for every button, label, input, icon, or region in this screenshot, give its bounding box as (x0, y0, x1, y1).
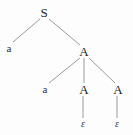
tree-edge (89, 58, 115, 83)
tree-node-n4: A (79, 83, 88, 96)
tree-node-n3: a (43, 84, 48, 95)
tree-node-n6: ε (81, 119, 85, 129)
tree-edge (49, 19, 80, 45)
tree-edge (49, 58, 80, 83)
tree-node-n2: A (79, 45, 88, 58)
tree-edge (13, 19, 40, 42)
parse-tree-figure: SaAaAAεε (0, 0, 133, 135)
tree-node-n5: A (113, 83, 122, 96)
tree-node-n0: S (40, 6, 47, 19)
tree-node-n7: ε (115, 119, 119, 129)
tree-edges-layer (0, 0, 133, 135)
tree-node-n1: a (7, 43, 12, 54)
